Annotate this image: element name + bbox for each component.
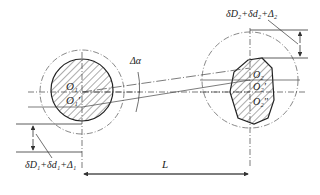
left-center-upper-label: O₁ xyxy=(66,80,78,92)
alignment-diagram: O₁ O₁' δD₁+δd₁+Δ₁ O₂ O₂' O₂'' δD₂+δd₂+Δ₂ xyxy=(0,0,320,195)
right-center-middle-label: O₂' xyxy=(253,81,267,92)
left-tolerance-dimension: δD₁+δd₁+Δ₁ xyxy=(16,124,82,170)
left-shaft: O₁ O₁' xyxy=(28,50,140,168)
left-leader-line xyxy=(36,134,52,158)
distance-dimension: L xyxy=(84,158,248,174)
right-hatched-shaft xyxy=(230,58,274,124)
right-shaft: O₂ O₂' O₂'' xyxy=(200,28,305,168)
distance-label: L xyxy=(161,158,168,170)
right-center-upper-label: O₂ xyxy=(253,69,264,80)
right-center-lower-label: O₂'' xyxy=(253,96,269,107)
right-tolerance-label: δD₂+δd₂+Δ₂ xyxy=(226,8,278,19)
delta-alpha-label: Δα xyxy=(129,55,142,66)
left-tolerance-label: δD₁+δd₁+Δ₁ xyxy=(25,159,76,170)
left-center-lower-label: O₁' xyxy=(66,94,81,106)
right-leader-line xyxy=(268,20,298,44)
right-tolerance-dimension: δD₂+δd₂+Δ₂ xyxy=(226,8,308,58)
